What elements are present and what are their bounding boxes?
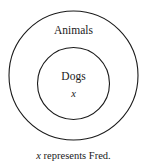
element-marker-x: x xyxy=(0,89,147,100)
caption-text: represents Fred. xyxy=(41,150,111,161)
outer-set-label: Animals xyxy=(0,25,147,37)
venn-diagram: Animals Dogs x xyxy=(0,0,147,147)
figure-caption: x represents Fred. xyxy=(0,150,147,162)
inner-circle-dogs xyxy=(38,48,110,120)
inner-set-label: Dogs xyxy=(0,71,147,83)
